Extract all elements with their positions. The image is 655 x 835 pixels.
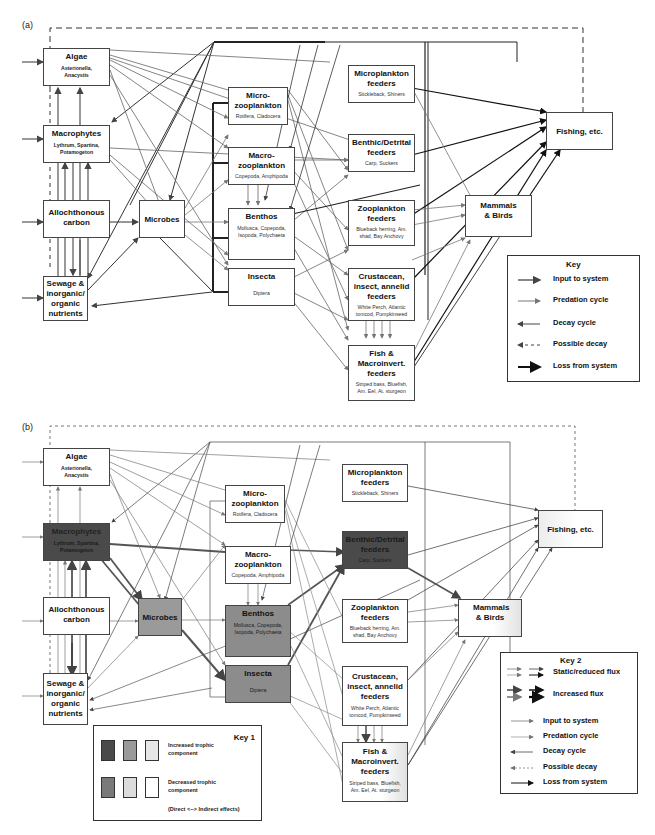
node-subtitle: Copepoda, Amphipoda: [226, 572, 290, 579]
node-title: Micro- zooplankton: [229, 88, 287, 111]
node-benthos-b[interactable]: Benthos Mollusca, Copepoda, Isopoda, Pol…: [225, 605, 291, 657]
node-title: Sewage & inorganic/ organic nutrients: [44, 277, 87, 319]
node-subtitle: Rotifera, Cladocera: [229, 113, 287, 120]
node-title: Benthic/Detrital feeders: [349, 135, 414, 158]
node-fish-feeders-a[interactable]: Fish & Macroinvert. feeders Striped bass…: [348, 345, 415, 401]
node-title: Macro- zooplankton: [226, 547, 290, 570]
node-fish-feeders-b[interactable]: Fish & Macroinvert. feeders Striped bass…: [342, 742, 408, 802]
node-subtitle: Copepoda, Amphipoda: [229, 173, 294, 180]
node-subtitle: White Perch, Atlantic tomcod, Pumpkinsee…: [343, 705, 407, 719]
node-fishing-a[interactable]: Fishing, etc.: [546, 112, 613, 150]
node-microbes-a[interactable]: Microbes: [139, 200, 185, 238]
node-sewage-b[interactable]: Sewage & inorganic/ organic nutrients: [43, 673, 88, 725]
node-subtitle: Stickleback, Shiners: [343, 490, 407, 497]
node-title: Crustacean, insect, annelid feeders: [343, 667, 407, 702]
key2-item-possible-decay: Possible decay: [543, 762, 597, 771]
key2-item-decay: Decay cycle: [543, 746, 586, 755]
node-title: Allochthonous carbon: [44, 598, 109, 625]
node-macrophytes-b[interactable]: Macrophytes Lythrum, Spartina, Potamoget…: [43, 523, 110, 561]
node-mammals-b[interactable]: Mammals & Birds: [458, 599, 522, 637]
node-title: Mammals & Birds: [466, 196, 531, 221]
key-item-possible-decay: Possible decay: [553, 339, 607, 348]
key2-item-static-flux: Static/reduced flux: [553, 667, 620, 676]
node-title: Zooplankton feeders: [343, 600, 407, 623]
node-macrozoo-b[interactable]: Macro- zooplankton Copepoda, Amphipoda: [225, 546, 291, 584]
node-subtitle: Rotifera, Cladocera: [226, 511, 284, 518]
node-allochthonous-a[interactable]: Allochthonous carbon: [43, 200, 110, 238]
node-subtitle: Diptera: [226, 687, 290, 694]
node-insecta-a[interactable]: Insecta Diptera: [228, 268, 295, 306]
key2-item-input: Input to system: [543, 716, 598, 725]
node-title: Microbes: [139, 599, 181, 623]
key2-panel: Key 2 Static/reduced flux Increased flux…: [500, 652, 638, 794]
node-mammals-a[interactable]: Mammals & Birds: [465, 195, 532, 237]
node-microzoo-b[interactable]: Micro- zooplankton Rotifera, Cladocera: [225, 485, 285, 523]
node-zooplankton-feeders-b[interactable]: Zooplankton feeders Blueback herring, Am…: [342, 599, 408, 643]
key2-item-predation: Predation cycle: [543, 731, 598, 740]
key-item-decay: Decay cycle: [553, 318, 596, 327]
key-item-loss: Loss from system: [553, 361, 617, 370]
node-subtitle: Stickleback, Shiners: [349, 91, 414, 98]
node-title: Benthic/Detrital feeders: [343, 532, 407, 555]
key1-title: Key 1: [234, 733, 255, 742]
node-title: Micro- zooplankton: [226, 486, 284, 509]
swatch-increased-indirect: [145, 740, 159, 761]
panel-b-label: (b): [22, 422, 33, 432]
node-title: Algae: [44, 49, 109, 62]
node-title: Algae: [44, 449, 109, 462]
node-sewage-a[interactable]: Sewage & inorganic/ organic nutrients: [43, 276, 88, 321]
node-title: Mammals & Birds: [459, 600, 521, 623]
node-fishing-b[interactable]: Fishing, etc.: [538, 510, 603, 548]
node-subtitle: Asterionella, Anacystis: [44, 465, 109, 479]
node-subtitle: Asterionella, Anacystis: [44, 65, 109, 79]
node-allochthonous-b[interactable]: Allochthonous carbon: [43, 597, 110, 635]
node-title: Microplankton feeders: [343, 465, 407, 488]
node-benthos-a[interactable]: Benthos Mollusca, Copepoda, Isopoda, Pol…: [228, 208, 295, 260]
node-benthic-feeders-b[interactable]: Benthic/Detrital feeders Carp, Suckers: [342, 531, 408, 569]
node-zooplankton-feeders-a[interactable]: Zooplankton feeders Blueback herring, Am…: [348, 200, 415, 246]
node-title: Fishing, etc.: [547, 113, 612, 137]
node-title: Macro- zooplankton: [229, 148, 294, 171]
node-macrophytes-a[interactable]: Macrophytes Lythrum, Spartina, Potamoget…: [43, 125, 110, 163]
node-subtitle: Blueback herring, Am. shad, Bay Anchovy: [349, 226, 414, 240]
key1-note: (Direct <--> Indirect effects): [168, 805, 240, 813]
node-title: Macrophytes: [44, 126, 109, 139]
swatch-increased-mid: [123, 740, 137, 761]
node-crustacean-feeders-a[interactable]: Crustacean, insect, annelid feeders Whit…: [348, 268, 415, 321]
node-microbes-b[interactable]: Microbes: [138, 598, 182, 636]
node-subtitle: Lythrum, Spartina, Potamogeton: [44, 540, 109, 554]
node-title: Allochthonous carbon: [44, 201, 109, 228]
node-title: Zooplankton feeders: [349, 201, 414, 224]
swatch-decreased-mid: [123, 777, 137, 798]
key-item-predation: Predation cycle: [553, 295, 608, 304]
node-subtitle: Lythrum, Spartina, Potamogeton: [44, 142, 109, 156]
node-title: Benthos: [229, 209, 294, 222]
node-subtitle: Mollusca, Copepoda, Isopoda, Polychaeta: [226, 622, 290, 636]
node-algae-a[interactable]: Algae Asterionella, Anacystis: [43, 48, 110, 86]
node-microplankton-feeders-b[interactable]: Microplankton feeders Stickleback, Shine…: [342, 464, 408, 502]
key1-increased-label: Increased trophic component: [168, 741, 228, 757]
node-insecta-b[interactable]: Insecta Diptera: [225, 665, 291, 703]
node-microzoo-a[interactable]: Micro- zooplankton Rotifera, Cladocera: [228, 87, 288, 125]
node-crustacean-feeders-b[interactable]: Crustacean, insect, annelid feeders Whit…: [342, 666, 408, 726]
node-title: Macrophytes: [44, 524, 109, 537]
node-macrozoo-a[interactable]: Macro- zooplankton Copepoda, Amphipoda: [228, 147, 295, 185]
swatch-decreased-indirect: [145, 777, 159, 798]
key2-item-increased-flux: Increased flux: [553, 689, 603, 698]
key2-item-loss: Loss from system: [543, 777, 607, 786]
node-microplankton-feeders-a[interactable]: Microplankton feeders Stickleback, Shine…: [348, 65, 415, 103]
node-subtitle: Blueback herring, Am. shad, Bay Anchovy: [343, 625, 407, 639]
panel-a-label: (a): [22, 20, 33, 30]
key1-panel: Key 1 Increased trophic component Decrea…: [93, 725, 262, 821]
node-algae-b[interactable]: Algae Asterionella, Anacystis: [43, 448, 110, 486]
node-title: Insecta: [229, 269, 294, 282]
node-subtitle: Diptera: [229, 290, 294, 297]
node-subtitle: Carp, Suckers: [349, 160, 414, 167]
key-item-input: Input to system: [553, 274, 608, 283]
node-benthic-feeders-a[interactable]: Benthic/Detrital feeders Carp, Suckers: [348, 134, 415, 172]
node-subtitle: Striped bass, Bluefish, Am. Eel, At. stu…: [349, 381, 414, 395]
node-subtitle: Mollusca, Copepoda, Isopoda, Polychaeta: [229, 225, 294, 239]
node-title: Benthos: [226, 606, 290, 619]
node-subtitle: Carp, Suckers: [343, 557, 407, 564]
node-title: Crustacean, insect, annelid feeders: [349, 269, 414, 302]
